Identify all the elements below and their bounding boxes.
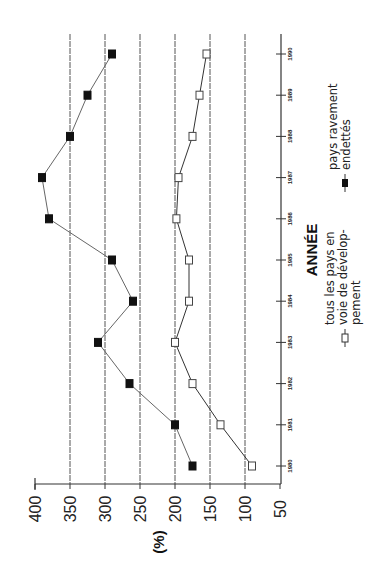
open-square-marker <box>186 297 193 305</box>
value-tick-label: 200 <box>167 496 184 523</box>
filled-square-marker <box>130 297 137 305</box>
filled-square-marker <box>67 132 74 140</box>
open-square-marker <box>175 174 182 182</box>
year-tick-label: 1985 <box>287 253 293 267</box>
value-tick-label: 400 <box>27 496 44 523</box>
filled-square-marker <box>109 256 116 264</box>
year-tick-label: 1982 <box>287 376 293 390</box>
open-square-marker <box>189 132 196 140</box>
year-tick-label: 1990 <box>287 47 293 61</box>
legend-label: pays ravement <box>326 83 340 170</box>
tick-labels: 1980198119821983198419851986198719881989… <box>27 47 293 523</box>
legend-label: endettés <box>339 119 353 170</box>
filled-square-marker <box>84 91 91 99</box>
gridlines <box>70 34 245 484</box>
value-tick-label: 50 <box>272 500 289 518</box>
value-tick-label: 350 <box>62 496 79 523</box>
value-tick-label: 150 <box>202 496 219 523</box>
legend-label: voie de dévelop- <box>336 229 350 325</box>
legend-label: pement <box>349 280 363 325</box>
open-square-marker <box>189 380 196 388</box>
filled-square-marker <box>46 215 53 223</box>
value-tick-label: 100 <box>237 496 254 523</box>
x-axis-title: ANNÉE <box>303 224 320 277</box>
open-square-marker <box>196 91 203 99</box>
filled-square-marker <box>95 338 102 346</box>
year-tick-label: 1988 <box>287 129 293 143</box>
value-tick-label: 300 <box>97 496 114 523</box>
axes <box>35 34 286 490</box>
legend: tous les pays envoie de dévelop-pementpa… <box>323 83 363 347</box>
legend-label: tous les pays en <box>323 231 337 325</box>
filled-square-marker <box>189 462 196 470</box>
open-square-marker <box>203 50 210 58</box>
rotated-line-chart: 1980198119821983198419851986198719881989… <box>0 0 379 565</box>
year-tick-label: 1986 <box>287 211 293 225</box>
year-tick-label: 1984 <box>287 294 293 308</box>
open-square-marker <box>172 338 179 346</box>
year-tick-label: 1987 <box>287 170 293 184</box>
year-tick-label: 1989 <box>287 88 293 102</box>
value-tick-label: 250 <box>132 496 149 523</box>
open-square-marker <box>173 215 180 223</box>
year-tick-label: 1983 <box>287 335 293 349</box>
filled-square-marker <box>39 174 46 182</box>
filled-square-marker <box>172 421 179 429</box>
year-tick-label: 1981 <box>287 417 293 431</box>
legend-filled-square-icon <box>342 179 348 187</box>
filled-square-marker <box>126 380 133 388</box>
open-square-marker <box>217 421 224 429</box>
series-line-heavily-indebted <box>42 54 193 466</box>
open-square-marker <box>186 256 193 264</box>
legend-open-square-icon <box>342 334 348 342</box>
y-axis-title: (%) <box>150 530 167 553</box>
data-series <box>39 50 256 470</box>
year-tick-label: 1980 <box>287 459 293 473</box>
filled-square-marker <box>109 50 116 58</box>
open-square-marker <box>249 462 256 470</box>
